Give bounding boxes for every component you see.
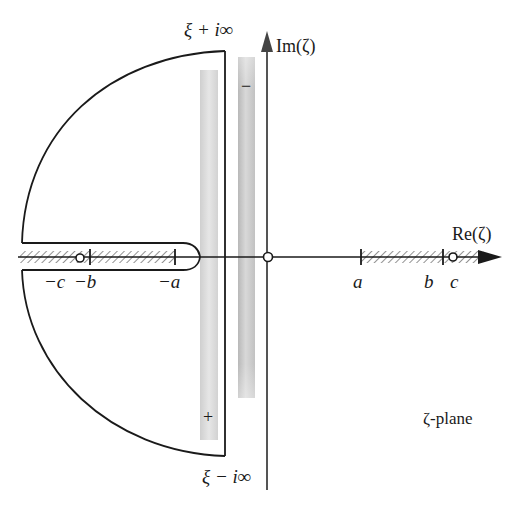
imaginary-axis-label: Im(ζ) — [276, 36, 315, 57]
pole-c-icon — [449, 253, 457, 261]
zeta-plane-diagram: ξ + i∞ ξ − i∞ Im(ζ) Re(ζ) ζ-plane + − −c… — [0, 0, 516, 505]
label-neg-c: −c — [44, 271, 66, 292]
minus-strip — [238, 57, 255, 398]
plus-strip — [200, 70, 218, 440]
contour-top-label: ξ + i∞ — [184, 19, 233, 40]
caption-fragment: .................................... — [0, 494, 516, 505]
real-axis-label: Re(ζ) — [452, 224, 491, 245]
imaginary-axis-arrow-icon — [261, 31, 273, 52]
label-neg-a: −a — [158, 271, 180, 292]
pole-neg-c-icon — [76, 254, 84, 262]
label-a: a — [353, 271, 363, 292]
label-neg-b: −b — [74, 271, 96, 292]
origin-pole-icon — [264, 253, 273, 262]
label-b: b — [424, 271, 434, 292]
plane-label: ζ-plane — [423, 409, 473, 428]
real-axis-arrow-icon — [478, 250, 502, 264]
label-c: c — [450, 271, 459, 292]
contour-bottom-label: ξ − i∞ — [202, 466, 251, 487]
minus-strip-sign: − — [241, 76, 251, 96]
plus-strip-sign: + — [203, 407, 213, 427]
